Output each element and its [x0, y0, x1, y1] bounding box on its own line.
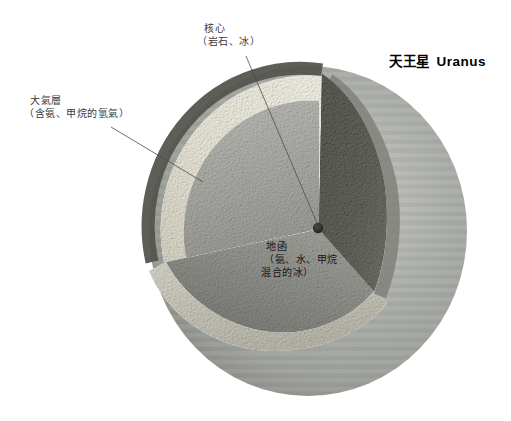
planet-title: 天王星Uranus	[389, 50, 486, 70]
core-label: 核心	[204, 22, 260, 35]
atmosphere-callout: 大氣層 （含氨、甲烷的氫氣）	[24, 94, 129, 120]
uranus-structure-diagram: 天王星Uranus 核心 （岩石、冰） 大氣層 （含氨、甲烷的氫氣） 地函 （氨…	[0, 0, 511, 421]
core-callout: 核心 （岩石、冰）	[197, 22, 260, 48]
atmosphere-label: 大氣層	[30, 94, 129, 107]
mantle-sublabel-line2: 混合的冰）	[261, 266, 338, 279]
planet-title-zh: 天王星	[389, 54, 430, 69]
core-sublabel: （岩石、冰）	[197, 35, 260, 48]
mantle-label: 地函	[266, 240, 338, 253]
planet-title-en: Uranus	[437, 54, 487, 69]
mantle-sublabel-line1: （氨、水、甲烷	[264, 253, 338, 266]
mantle-callout: 地函 （氨、水、甲烷 混合的冰）	[259, 240, 338, 279]
atmosphere-sublabel: （含氨、甲烷的氫氣）	[24, 107, 129, 120]
core-dot	[313, 223, 323, 233]
